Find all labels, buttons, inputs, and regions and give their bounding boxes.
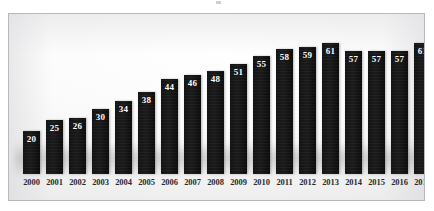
bar-2017[interactable]: 61 (414, 43, 425, 174)
bar-chart-figure: 202526303438444648515558596157575761 200… (0, 0, 434, 211)
x-axis-label-2008: 2008 (204, 176, 227, 188)
bar-2000[interactable]: 20 (23, 131, 40, 174)
bar-rect: 26 (69, 118, 86, 174)
x-axis-label-2010: 2010 (250, 176, 273, 188)
x-axis-label-2009: 2009 (227, 176, 250, 188)
x-axis-label-2012: 2012 (296, 176, 319, 188)
x-axis-label-2000: 2000 (20, 176, 43, 188)
bar-value-label: 59 (299, 50, 316, 60)
bar-rect: 57 (391, 51, 408, 174)
bar-2007[interactable]: 46 (184, 75, 201, 174)
bar-rect: 59 (299, 47, 316, 174)
bar-2012[interactable]: 59 (299, 47, 316, 174)
bar-value-label: 58 (276, 52, 293, 62)
bar-rect: 46 (184, 75, 201, 174)
bar-rect: 57 (368, 51, 385, 174)
bar-value-label: 61 (322, 46, 339, 56)
bar-2011[interactable]: 58 (276, 49, 293, 174)
bar-2005[interactable]: 38 (138, 92, 155, 174)
bar-rect: 57 (345, 51, 362, 174)
bar-value-label: 20 (23, 134, 40, 144)
bar-value-label: 48 (207, 74, 224, 84)
bar-rect: 58 (276, 49, 293, 174)
bar-value-label: 34 (115, 104, 132, 114)
chart-plot-frame: 202526303438444648515558596157575761 200… (8, 13, 425, 201)
plot-area: 202526303438444648515558596157575761 (15, 34, 418, 174)
bar-rect: 48 (207, 71, 224, 174)
bar-value-label: 57 (345, 54, 362, 64)
bar-rect: 38 (138, 92, 155, 174)
bar-rect: 34 (115, 101, 132, 174)
x-axis-label-2007: 2007 (181, 176, 204, 188)
bar-value-label: 57 (368, 54, 385, 64)
bar-value-label: 30 (92, 112, 109, 122)
bar-2016[interactable]: 57 (391, 51, 408, 174)
bar-2001[interactable]: 25 (46, 120, 63, 174)
x-axis-label-2004: 2004 (112, 176, 135, 188)
bar-value-label: 61 (414, 46, 425, 56)
bar-2013[interactable]: 61 (322, 43, 339, 174)
scan-artifact-mark (216, 1, 221, 4)
bar-value-label: 38 (138, 95, 155, 105)
bar-value-label: 25 (46, 123, 63, 133)
x-axis-label-2016: 2016 (388, 176, 411, 188)
x-axis-label-2003: 2003 (89, 176, 112, 188)
x-axis-label-2015: 2015 (365, 176, 388, 188)
bar-rect: 61 (414, 43, 425, 174)
bar-rect: 44 (161, 79, 178, 174)
bar-2008[interactable]: 48 (207, 71, 224, 174)
bar-rect: 30 (92, 109, 109, 174)
bar-value-label: 57 (391, 54, 408, 64)
bar-rect: 25 (46, 120, 63, 174)
bar-2004[interactable]: 34 (115, 101, 132, 174)
bar-rect: 55 (253, 56, 270, 174)
x-axis-label-2002: 2002 (66, 176, 89, 188)
bar-value-label: 26 (69, 121, 86, 131)
x-axis-label-2011: 2011 (273, 176, 296, 188)
x-axis-label-2001: 2001 (43, 176, 66, 188)
bar-value-label: 46 (184, 78, 201, 88)
x-axis-label-2013: 2013 (319, 176, 342, 188)
x-axis-labels: 2000200120022003200420052006200720082009… (15, 176, 418, 192)
bar-rect: 20 (23, 131, 40, 174)
x-axis-label-2005: 2005 (135, 176, 158, 188)
bar-2009[interactable]: 51 (230, 64, 247, 174)
bar-value-label: 51 (230, 67, 247, 77)
x-axis-label-2006: 2006 (158, 176, 181, 188)
x-axis-label-2017: 2017 (411, 176, 425, 188)
bar-2015[interactable]: 57 (368, 51, 385, 174)
bar-2002[interactable]: 26 (69, 118, 86, 174)
bar-2010[interactable]: 55 (253, 56, 270, 174)
bar-2006[interactable]: 44 (161, 79, 178, 174)
bar-value-label: 44 (161, 82, 178, 92)
bar-rect: 51 (230, 64, 247, 174)
x-axis-label-2014: 2014 (342, 176, 365, 188)
bar-value-label: 55 (253, 59, 270, 69)
bar-rect: 61 (322, 43, 339, 174)
bar-2003[interactable]: 30 (92, 109, 109, 174)
bar-2014[interactable]: 57 (345, 51, 362, 174)
